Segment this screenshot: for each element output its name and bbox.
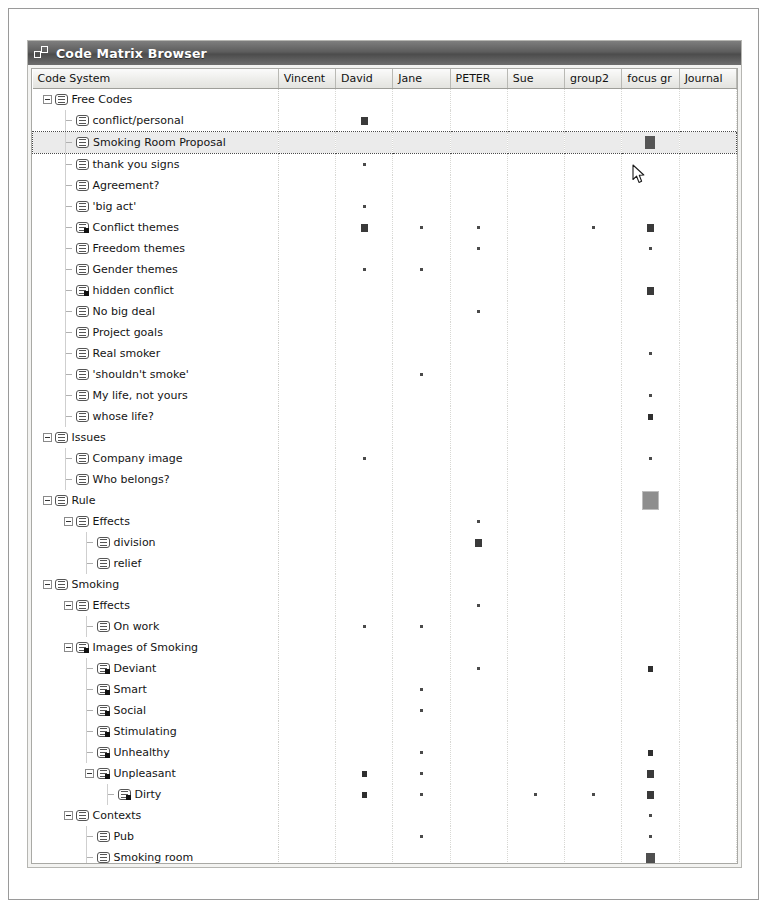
frequency-marker[interactable]: [363, 205, 366, 208]
matrix-cell[interactable]: [679, 742, 736, 763]
column-header-document[interactable]: Sue: [507, 69, 564, 89]
matrix-cell[interactable]: [565, 343, 622, 364]
matrix-cell[interactable]: [679, 89, 736, 111]
matrix-cell[interactable]: [450, 448, 507, 469]
matrix-cell[interactable]: [336, 805, 393, 826]
code-system-cell[interactable]: Rule: [33, 490, 279, 511]
code-system-cell[interactable]: Smoking room: [33, 847, 279, 864]
matrix-cell[interactable]: [278, 805, 335, 826]
tree-item[interactable]: Rule: [37, 490, 278, 511]
matrix-cell[interactable]: [565, 448, 622, 469]
tree-collapse-toggle-icon[interactable]: [43, 433, 52, 442]
matrix-cell[interactable]: [393, 406, 450, 427]
matrix-cell[interactable]: [393, 637, 450, 658]
matrix-cell[interactable]: [622, 343, 679, 364]
matrix-cell[interactable]: [507, 847, 564, 864]
tree-item[interactable]: Who belongs?: [37, 469, 278, 490]
frequency-marker[interactable]: [477, 667, 480, 670]
matrix-cell[interactable]: [450, 616, 507, 637]
matrix-cell[interactable]: [622, 553, 679, 574]
matrix-cell[interactable]: [507, 826, 564, 847]
matrix-cell[interactable]: [679, 217, 736, 238]
frequency-marker[interactable]: [646, 853, 655, 863]
matrix-cell[interactable]: [450, 154, 507, 176]
frequency-marker[interactable]: [647, 287, 654, 295]
matrix-cell[interactable]: [622, 679, 679, 700]
matrix-cell[interactable]: [336, 196, 393, 217]
matrix-cell[interactable]: [450, 469, 507, 490]
code-system-cell[interactable]: 'big act': [33, 196, 279, 217]
matrix-cell[interactable]: [336, 385, 393, 406]
matrix-cell[interactable]: [622, 406, 679, 427]
code-system-cell[interactable]: Company image: [33, 448, 279, 469]
tree-collapse-toggle-icon[interactable]: [43, 95, 52, 104]
tree-collapse-toggle-icon[interactable]: [64, 643, 73, 652]
matrix-cell[interactable]: [565, 364, 622, 385]
tree-collapse-toggle-icon[interactable]: [43, 496, 52, 505]
tree-item[interactable]: Effects: [37, 511, 278, 532]
matrix-cell[interactable]: [336, 364, 393, 385]
matrix-cell[interactable]: [622, 301, 679, 322]
matrix-cell[interactable]: [450, 637, 507, 658]
matrix-cell[interactable]: [507, 427, 564, 448]
matrix-cell[interactable]: [278, 784, 335, 805]
matrix-cell[interactable]: [336, 679, 393, 700]
matrix-cell[interactable]: [336, 490, 393, 511]
matrix-cell[interactable]: [565, 89, 622, 111]
matrix-cell[interactable]: [507, 490, 564, 511]
matrix-cell[interactable]: [622, 427, 679, 448]
matrix-cell[interactable]: [336, 532, 393, 553]
matrix-cell[interactable]: [278, 196, 335, 217]
frequency-marker[interactable]: [477, 247, 480, 250]
frequency-marker[interactable]: [420, 772, 423, 775]
matrix-cell[interactable]: [679, 616, 736, 637]
matrix-cell[interactable]: [565, 238, 622, 259]
code-system-cell[interactable]: Smoking Room Proposal: [33, 132, 279, 154]
matrix-cell[interactable]: [450, 238, 507, 259]
tree-item[interactable]: Images of Smoking: [37, 637, 278, 658]
matrix-cell[interactable]: [336, 280, 393, 301]
matrix-cell[interactable]: [278, 490, 335, 511]
matrix-cell[interactable]: [679, 784, 736, 805]
matrix-cell[interactable]: [278, 427, 335, 448]
matrix-cell[interactable]: [679, 700, 736, 721]
frequency-marker[interactable]: [649, 457, 652, 460]
matrix-cell[interactable]: [278, 847, 335, 864]
matrix-cell[interactable]: [278, 406, 335, 427]
matrix-cell[interactable]: [393, 280, 450, 301]
matrix-row[interactable]: Rule: [33, 490, 737, 511]
matrix-cell[interactable]: [450, 364, 507, 385]
matrix-cell[interactable]: [679, 132, 736, 154]
matrix-cell[interactable]: [507, 132, 564, 154]
matrix-cell[interactable]: [622, 217, 679, 238]
code-system-cell[interactable]: division: [33, 532, 279, 553]
matrix-cell[interactable]: [393, 385, 450, 406]
code-system-cell[interactable]: relief: [33, 553, 279, 574]
frequency-marker[interactable]: [477, 226, 480, 229]
matrix-cell[interactable]: [393, 196, 450, 217]
matrix-cell[interactable]: [507, 532, 564, 553]
matrix-cell[interactable]: [393, 847, 450, 864]
matrix-cell[interactable]: [278, 301, 335, 322]
matrix-cell[interactable]: [622, 763, 679, 784]
frequency-marker[interactable]: [475, 539, 482, 547]
code-system-cell[interactable]: Smart: [33, 679, 279, 700]
tree-item[interactable]: No big deal: [37, 301, 278, 322]
matrix-cell[interactable]: [565, 700, 622, 721]
matrix-cell[interactable]: [450, 763, 507, 784]
matrix-cell[interactable]: [278, 721, 335, 742]
code-system-cell[interactable]: Unpleasant: [33, 763, 279, 784]
matrix-row[interactable]: Stimulating: [33, 721, 737, 742]
tree-item[interactable]: Conflict themes: [37, 217, 278, 238]
code-system-cell[interactable]: whose life?: [33, 406, 279, 427]
matrix-cell[interactable]: [278, 763, 335, 784]
matrix-cell[interactable]: [679, 175, 736, 196]
tree-item[interactable]: 'big act': [37, 196, 278, 217]
column-header-document[interactable]: group2: [565, 69, 622, 89]
matrix-cell[interactable]: [450, 196, 507, 217]
matrix-cell[interactable]: [393, 427, 450, 448]
matrix-cell[interactable]: [450, 110, 507, 132]
matrix-cell[interactable]: [450, 553, 507, 574]
matrix-cell[interactable]: [622, 154, 679, 176]
matrix-cell[interactable]: [507, 385, 564, 406]
